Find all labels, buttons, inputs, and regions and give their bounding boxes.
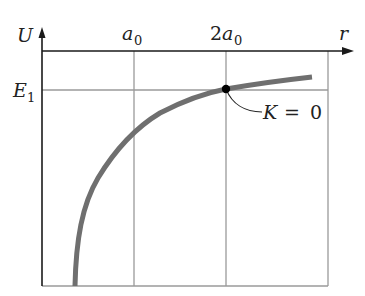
svg-text:=: = [278,101,306,123]
svg-text:0: 0 [310,101,322,123]
tick-label-E1: E 1 [12,79,35,105]
svg-text:0: 0 [134,33,142,48]
annotation-k-equals-zero: K = 0 [262,101,322,123]
svg-text:2: 2 [210,22,222,44]
diagram-canvas: U r a 0 2 a 0 E 1 K = 0 [0,0,365,296]
u-axis-arrow-icon [39,27,46,38]
svg-text:1: 1 [27,90,35,105]
grid [42,51,328,286]
r-axis-label: r [339,22,350,44]
tick-label-2a0: 2 a 0 [210,22,242,48]
potential-energy-diagram: U r a 0 2 a 0 E 1 K = 0 [0,0,365,296]
u-axis-label: U [17,24,34,46]
svg-text:0: 0 [234,33,242,48]
turning-point [222,85,230,93]
tick-label-a0: a 0 [122,22,142,48]
annotation-leader-line [226,89,262,112]
svg-text:K: K [262,101,279,123]
svg-text:a: a [122,22,133,44]
svg-text:a: a [222,22,233,44]
svg-text:E: E [12,79,27,101]
r-axis-arrow-icon [342,47,354,55]
axes [42,36,344,286]
